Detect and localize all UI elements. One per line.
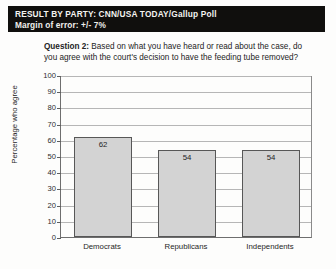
y-axis-tick-label: 70 <box>34 121 56 129</box>
gridline <box>61 92 311 93</box>
y-axis-tick-label: 40 <box>34 169 56 177</box>
y-axis-tick-labels: 0102030405060708090100 <box>30 76 56 238</box>
y-axis-tick-label: 10 <box>34 218 56 226</box>
y-axis-tick-label: 50 <box>34 153 56 161</box>
plot-area: 625454 <box>60 76 312 238</box>
bar-value-label: 62 <box>75 140 131 149</box>
y-axis-tick-label: 30 <box>34 185 56 193</box>
y-axis-tick <box>57 108 61 109</box>
bar-chart: Percentage who agree 0102030405060708090… <box>0 0 336 269</box>
gridline <box>61 76 311 77</box>
gridline <box>61 125 311 126</box>
y-axis-tick-label: 80 <box>34 104 56 112</box>
y-axis-tick-label: 60 <box>34 137 56 145</box>
y-axis-tick <box>57 157 61 158</box>
y-axis-tick-label: 20 <box>34 202 56 210</box>
gridline <box>61 108 311 109</box>
y-axis-tick-label: 100 <box>34 72 56 80</box>
y-axis-tick <box>57 206 61 207</box>
y-axis-tick <box>57 125 61 126</box>
y-axis-title: Percentage who agree <box>10 65 19 185</box>
y-axis-tick-label: 90 <box>34 88 56 96</box>
y-axis-tick <box>57 189 61 190</box>
x-axis-category-label: Republicans <box>144 242 228 251</box>
bar: 54 <box>242 150 300 237</box>
y-axis-tick <box>57 173 61 174</box>
y-axis-tick <box>57 222 61 223</box>
y-axis-tick <box>57 76 61 77</box>
bar-value-label: 54 <box>159 153 215 162</box>
bar: 54 <box>158 150 216 237</box>
y-axis-tick <box>57 238 61 239</box>
x-axis-category-label: Democrats <box>60 242 144 251</box>
bar: 62 <box>74 137 132 237</box>
y-axis-tick <box>57 92 61 93</box>
y-axis-tick-label: 0 <box>34 234 56 242</box>
bar-value-label: 54 <box>243 153 299 162</box>
x-axis-category-label: Independents <box>228 242 312 251</box>
y-axis-tick <box>57 141 61 142</box>
